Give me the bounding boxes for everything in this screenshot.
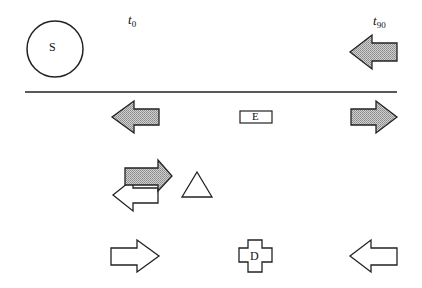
- time-end-subscript: 90: [377, 20, 386, 30]
- time-label-start: t0: [128, 12, 136, 29]
- entity-label: E: [252, 110, 259, 122]
- time-label-end: t90: [373, 13, 386, 30]
- destination-label: D: [250, 249, 259, 264]
- arrow-right-shaded-row2-icon: [351, 101, 397, 133]
- arrow-left-open-row4-icon: [350, 240, 397, 272]
- diagram-canvas: [0, 0, 422, 288]
- time-start-subscript: 0: [132, 19, 137, 29]
- arrow-left-shaded-row2-icon: [112, 101, 159, 133]
- triangle-shape: [182, 172, 212, 197]
- arrow-right-open-row4-icon: [111, 240, 159, 272]
- arrow-left-shaded-top-icon: [350, 35, 397, 69]
- source-label: S: [49, 40, 56, 55]
